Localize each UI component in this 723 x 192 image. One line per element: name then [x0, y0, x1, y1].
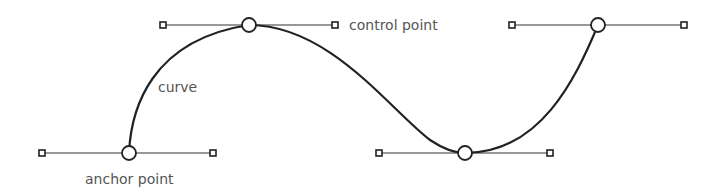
anchor-point[interactable] — [458, 146, 472, 160]
anchor-point[interactable] — [122, 146, 136, 160]
control-handle[interactable] — [210, 150, 216, 156]
bezier-diagram: curve control point anchor point — [0, 0, 723, 192]
control-handle[interactable] — [547, 150, 553, 156]
anchor-point[interactable] — [591, 18, 605, 32]
bezier-curve[interactable] — [129, 25, 598, 153]
curve-label: curve — [158, 79, 197, 95]
control-handle[interactable] — [160, 22, 166, 28]
anchor-point-label: anchor point — [85, 171, 174, 187]
anchor-point[interactable] — [242, 18, 256, 32]
control-handle[interactable] — [332, 22, 338, 28]
handle-lines — [42, 25, 684, 153]
control-handle[interactable] — [376, 150, 382, 156]
control-handle[interactable] — [509, 22, 515, 28]
control-handle[interactable] — [681, 22, 687, 28]
control-handle[interactable] — [39, 150, 45, 156]
control-point-label: control point — [349, 17, 438, 33]
